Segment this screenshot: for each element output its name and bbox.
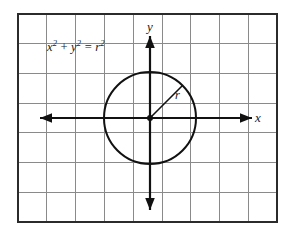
circle-equation-diagram xyxy=(0,0,295,234)
equation-r-exponent: 2 xyxy=(100,38,104,48)
equation-label: x2 + y2 = r2 xyxy=(47,41,105,54)
y-axis-label: y xyxy=(147,20,153,33)
figure-canvas: x2 + y2 = r2 x y r xyxy=(0,0,295,234)
radius-label: r xyxy=(175,89,180,102)
origin-center-point xyxy=(147,115,153,121)
equation-plus-operator: + xyxy=(57,40,71,54)
x-axis-label: x xyxy=(255,111,261,124)
equation-equals-operator: = xyxy=(81,40,95,54)
